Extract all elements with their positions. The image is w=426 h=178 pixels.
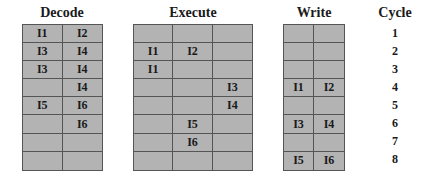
pipeline-cell: [134, 97, 173, 115]
pipeline-cell: I4: [63, 79, 103, 97]
pipeline-cell: [134, 134, 173, 152]
execute-title: Execute: [133, 5, 253, 21]
cycle-number: 2: [372, 42, 418, 60]
write-title: Write: [283, 5, 345, 21]
cycle-number: 4: [372, 78, 418, 96]
pipeline-cell: I4: [213, 97, 252, 115]
pipeline-cell: [314, 25, 344, 43]
pipeline-cell: I2: [63, 25, 103, 43]
pipeline-cell: [63, 134, 103, 152]
pipeline-cell: [284, 43, 314, 61]
pipeline-cell: [173, 25, 212, 43]
pipeline-cell: I6: [63, 115, 103, 133]
pipeline-cell: [23, 152, 63, 170]
pipeline-cell: I2: [314, 79, 344, 97]
pipeline-cell: I4: [63, 61, 103, 79]
pipeline-cell: [213, 152, 252, 170]
pipeline-cell: I6: [173, 134, 212, 152]
pipeline-cell: [63, 152, 103, 170]
cycle-number: 5: [372, 96, 418, 114]
execute-grid: I1I2I1I3I4I5I6: [133, 24, 253, 171]
pipeline-cell: [173, 97, 212, 115]
cycle-number: 3: [372, 60, 418, 78]
pipeline-cell: I5: [284, 152, 314, 170]
pipeline-cell: I3: [213, 79, 252, 97]
cycle-number: 1: [372, 24, 418, 42]
pipeline-cell: [173, 152, 212, 170]
pipeline-cell: I5: [23, 97, 63, 115]
pipeline-cell: I2: [173, 43, 212, 61]
pipeline-cell: [314, 97, 344, 115]
pipeline-cell: I6: [63, 97, 103, 115]
pipeline-cell: [284, 97, 314, 115]
pipeline-cell: [173, 61, 212, 79]
pipeline-cell: [134, 79, 173, 97]
pipeline-cell: [314, 43, 344, 61]
pipeline-cell: [213, 61, 252, 79]
pipeline-cell: I3: [284, 115, 314, 133]
pipeline-cell: I1: [134, 43, 173, 61]
pipeline-cell: I5: [173, 115, 212, 133]
pipeline-cell: [23, 134, 63, 152]
decode-title: Decode: [22, 5, 102, 21]
pipeline-cell: [284, 25, 314, 43]
pipeline-cell: [213, 25, 252, 43]
pipeline-cell: [173, 79, 212, 97]
pipeline-cell: I1: [23, 25, 63, 43]
pipeline-cell: I1: [134, 61, 173, 79]
pipeline-cell: [134, 25, 173, 43]
pipeline-cell: I1: [284, 79, 314, 97]
cycle-number: 7: [372, 133, 418, 151]
pipeline-cell: I4: [63, 43, 103, 61]
pipeline-cell: [23, 79, 63, 97]
pipeline-cell: [134, 115, 173, 133]
cycle-column: 12345678: [372, 24, 418, 169]
pipeline-cell: [284, 61, 314, 79]
write-grid: I1I2I3I4I5I6: [283, 24, 345, 171]
pipeline-cell: [314, 134, 344, 152]
pipeline-cell: [134, 152, 173, 170]
cycle-number: 6: [372, 114, 418, 132]
pipeline-cell: [213, 134, 252, 152]
pipeline-cell: [284, 134, 314, 152]
cycle-number: 8: [372, 151, 418, 169]
pipeline-cell: I3: [23, 43, 63, 61]
pipeline-cell: [213, 115, 252, 133]
pipeline-cell: [213, 43, 252, 61]
pipeline-cell: [314, 61, 344, 79]
pipeline-cell: I6: [314, 152, 344, 170]
pipeline-cell: I3: [23, 61, 63, 79]
pipeline-cell: [23, 115, 63, 133]
cycle-title: Cycle: [372, 5, 418, 21]
decode-grid: I1I2I3I4I3I4I4I5I6I6: [22, 24, 103, 171]
pipeline-cell: I4: [314, 115, 344, 133]
